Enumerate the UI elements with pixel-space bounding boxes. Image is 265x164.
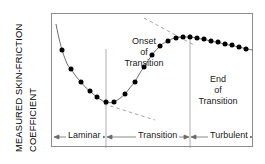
- annotation-end-of-transition: End of Transition: [182, 74, 254, 107]
- data-point: [112, 100, 117, 105]
- data-point: [60, 48, 65, 53]
- region-label-transition: Transition: [136, 130, 179, 140]
- y-axis-label-line2: COEFFICIENT: [27, 88, 40, 152]
- plot-area: Onset of Transition End of Transition La…: [51, 13, 253, 147]
- data-point: [195, 36, 200, 41]
- arrowhead-left-turbulent: [191, 135, 196, 139]
- annotation-end-line3: Transition: [182, 96, 254, 107]
- data-point: [123, 92, 128, 97]
- annotation-end-line2: of: [182, 85, 254, 96]
- data-point: [237, 45, 242, 50]
- data-point: [230, 43, 235, 48]
- data-point: [88, 89, 93, 94]
- data-point: [133, 80, 138, 85]
- arrowhead-left-transition: [107, 135, 112, 139]
- annotation-onset-of-transition: Onset of Transition: [108, 36, 180, 69]
- skin-friction-transition-figure: MEASURED SKIN-FRICTION COEFFICIENT: [0, 0, 265, 164]
- region-label-laminar: Laminar: [66, 130, 103, 140]
- data-point: [104, 100, 109, 105]
- data-point: [244, 47, 249, 52]
- annotation-end-line1: End: [182, 74, 254, 85]
- data-point: [181, 35, 186, 40]
- y-axis-label: MEASURED SKIN-FRICTION COEFFICIENT: [0, 0, 46, 164]
- data-point: [79, 80, 84, 85]
- data-point: [69, 67, 74, 72]
- annotation-onset-line1: Onset: [108, 36, 180, 47]
- arrowhead-left-laminar: [54, 135, 59, 139]
- data-point: [216, 40, 221, 45]
- annotation-onset-line2: of: [108, 47, 180, 58]
- region-label-turbulent: Turbulent: [208, 130, 250, 140]
- arrowhead-right-transition: [184, 135, 189, 139]
- dashed-laminar-extrapolation: [104, 104, 155, 120]
- data-point: [95, 95, 100, 100]
- data-point: [188, 35, 193, 40]
- data-point: [223, 42, 228, 47]
- y-axis-label-line1: MEASURED SKIN-FRICTION: [13, 24, 26, 152]
- annotation-onset-line3: Transition: [108, 58, 180, 69]
- data-point: [209, 39, 214, 44]
- data-point: [202, 37, 207, 42]
